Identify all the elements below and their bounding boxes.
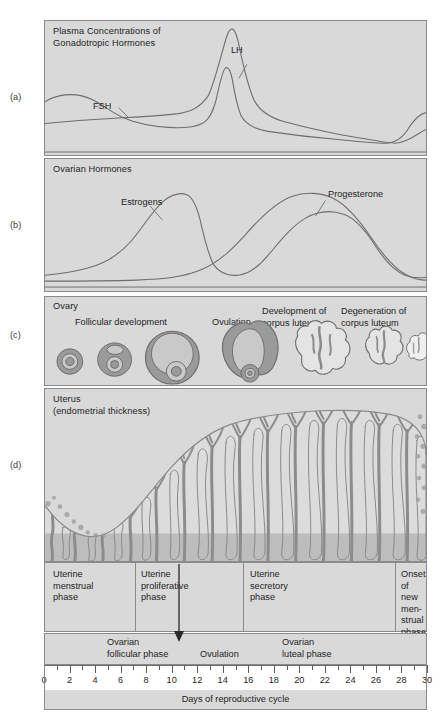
endometrium-diagram (45, 389, 426, 561)
axis-tick-label-16: 16 (243, 675, 253, 685)
axis-tick-day-7 (133, 665, 134, 670)
ovarian-phase-luteal: Ovarian luteal phase (282, 637, 332, 660)
panel-letter-d: (d) (10, 460, 21, 470)
axis-left-stem (44, 665, 45, 710)
axis-tick-day-3 (82, 665, 83, 670)
axis-tick-day-2 (70, 665, 71, 673)
uterine-phase-menstrual: Uterine menstrual phase (53, 569, 93, 604)
axis-tick-label-30: 30 (422, 675, 432, 685)
axis-tick-day-6 (121, 665, 122, 673)
ovarian-phase-follicular: Ovarian follicular phase (107, 637, 168, 660)
uterine-divider-3 (395, 563, 396, 631)
corpus-albicans (407, 333, 426, 360)
axis-tick-day-11 (184, 665, 185, 670)
axis-tick-day-30 (427, 665, 428, 673)
panel-letter-b: (b) (10, 220, 21, 230)
axis-tick-day-27 (389, 665, 390, 670)
follicle-stage-4-ovulation (223, 321, 279, 382)
axis-tick-day-14 (223, 665, 224, 673)
axis-tick-day-25 (363, 665, 364, 670)
axis-tick-day-16 (248, 665, 249, 673)
axis-tick-day-5 (108, 665, 109, 670)
panel-uterus-endometrium: Uterus (endometrial thickness) (44, 388, 427, 562)
curve-label-estrogens: Estrogens (121, 197, 162, 207)
uterine-phase-proliferative: Uterine proliferative phase (141, 569, 189, 604)
axis-tick-labels: 024681012141618202224262830 (44, 675, 427, 689)
corpus-luteum-development (296, 321, 350, 375)
curve-label-lh: LH (231, 45, 243, 55)
axis-tick-day-24 (350, 665, 351, 673)
axis-tick-label-2: 2 (67, 675, 72, 685)
gonadotropin-curves (45, 21, 426, 155)
follicle-stage-1 (57, 349, 83, 374)
axis-tick-day-22 (325, 665, 326, 673)
axis-tick-day-20 (299, 665, 300, 673)
axis-tick-label-14: 14 (218, 675, 228, 685)
axis-tick-day-10 (172, 665, 173, 673)
axis-tick-day-26 (376, 665, 377, 673)
axis-tick-label-10: 10 (167, 675, 177, 685)
axis-tick-day-8 (146, 665, 147, 673)
axis-tick-day-17 (261, 665, 262, 670)
ovulation-label: Ovulation (200, 649, 239, 659)
axis-title-band: Days of reproductive cycle (44, 690, 427, 710)
uterine-phase-band: Uterine menstrual phase Uterine prolifer… (44, 562, 427, 632)
axis-tick-label-24: 24 (345, 675, 355, 685)
panel-letter-c: (c) (10, 330, 21, 340)
curve-label-progesterone: Progesterone (328, 189, 383, 199)
uterine-divider-1 (135, 563, 136, 631)
axis-tick-day-18 (274, 665, 275, 673)
uterine-phase-secretory: Uterine secretory phase (250, 569, 288, 604)
ovary-follicle-diagrams (45, 297, 426, 385)
axis-tick-day-29 (414, 665, 415, 670)
axis-tick-day-28 (401, 665, 402, 673)
axis-title: Days of reproductive cycle (45, 694, 426, 704)
axis-tick-label-12: 12 (192, 675, 202, 685)
axis-tick-label-6: 6 (118, 675, 123, 685)
axis-tick-day-21 (312, 665, 313, 670)
axis-tick-day-9 (159, 665, 160, 670)
axis-tick-day-1 (57, 665, 58, 670)
axis-tick-label-8: 8 (144, 675, 149, 685)
uterine-phase-onset-new: Onset of new men- strual phase (401, 569, 426, 639)
axis-right-stem (426, 665, 427, 710)
axis-tick-day-15 (236, 665, 237, 670)
panel-gonadotropic-hormones: Plasma Concentrations of Gonadotropic Ho… (44, 20, 427, 156)
axis-tick-label-4: 4 (93, 675, 98, 685)
uterine-divider-2 (243, 563, 244, 631)
axis-tick-label-26: 26 (371, 675, 381, 685)
axis-tick-label-18: 18 (269, 675, 279, 685)
axis-tick-day-12 (197, 665, 198, 673)
corpus-luteum-degeneration (366, 326, 403, 364)
ovarian-phase-band: Ovarian follicular phase Ovulation Ovari… (44, 633, 427, 665)
axis-tick-label-22: 22 (320, 675, 330, 685)
follicle-stage-2 (98, 343, 132, 376)
panel-letter-a: (a) (10, 92, 21, 102)
curve-label-fsh: FSH (93, 101, 111, 111)
ovarian-hormone-curves (45, 159, 426, 291)
panel-ovarian-hormones: Ovarian Hormones Estrogens Progesterone (44, 158, 427, 292)
axis-tick-day-4 (95, 665, 96, 673)
axis-tick-day-19 (287, 665, 288, 670)
axis-tick-label-20: 20 (294, 675, 304, 685)
axis-tick-day-13 (210, 665, 211, 670)
axis-tick-day-23 (338, 665, 339, 670)
panel-ovary: Ovary Follicular development Ovulation D… (44, 296, 427, 386)
axis-tick-label-28: 28 (396, 675, 406, 685)
follicle-stage-3-graafian (145, 331, 199, 384)
reproductive-cycle-figure: (a) (b) (c) (d) Plasma Concentrations of… (0, 0, 447, 726)
